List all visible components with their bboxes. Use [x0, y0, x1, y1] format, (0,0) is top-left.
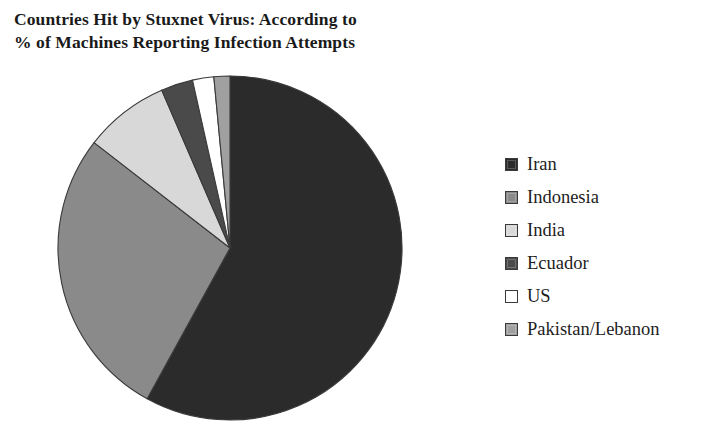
pie-slice-group: [58, 76, 402, 420]
legend-swatch-iran: [505, 158, 518, 171]
legend-swatch-us: [505, 290, 518, 303]
legend-swatch-india: [505, 224, 518, 237]
legend-item-label: Iran: [527, 155, 557, 174]
legend-item[interactable]: India: [505, 214, 720, 247]
legend-item-label: Indonesia: [527, 188, 599, 207]
page-title: Countries Hit by Stuxnet Virus: Accordin…: [14, 8, 484, 54]
legend-swatch-indonesia: [505, 191, 518, 204]
legend-item[interactable]: Indonesia: [505, 181, 720, 214]
legend-swatch-ecuador: [505, 257, 518, 270]
legend-swatch-pakistan-lebanon: [505, 323, 518, 336]
legend-item-label: Pakistan/Lebanon: [527, 320, 660, 339]
legend-item[interactable]: US: [505, 280, 720, 313]
legend-item-label: US: [527, 287, 551, 306]
pie-chart-graphic: [52, 70, 408, 426]
legend-item[interactable]: Ecuador: [505, 247, 720, 280]
legend-item-label: Ecuador: [527, 254, 589, 273]
pie-chart-figure: Countries Hit by Stuxnet Virus: Accordin…: [0, 0, 726, 444]
pie-svg: [52, 70, 408, 426]
title-line-1: Countries Hit by Stuxnet Virus: Accordin…: [14, 8, 484, 31]
legend-item[interactable]: Pakistan/Lebanon: [505, 313, 720, 346]
legend-item[interactable]: Iran: [505, 148, 720, 181]
legend-item-label: India: [527, 221, 565, 240]
chart-legend: IranIndonesiaIndiaEcuadorUSPakistan/Leba…: [505, 148, 720, 346]
title-line-2: % of Machines Reporting Infection Attemp…: [14, 31, 484, 54]
